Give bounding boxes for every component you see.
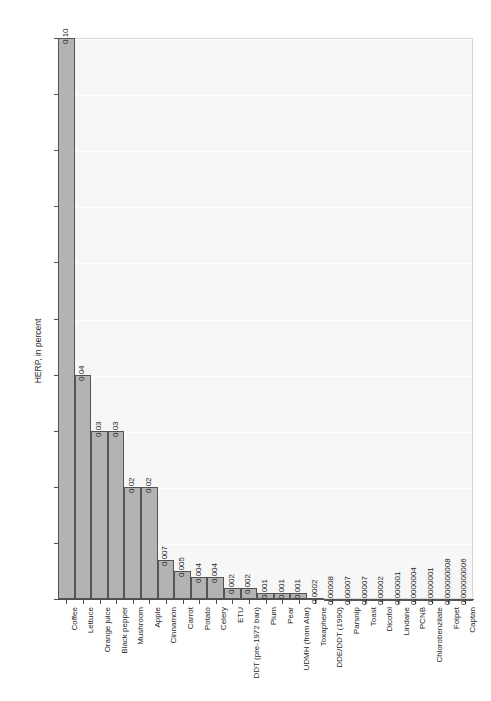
- x-tick-label: UDMH (from Alar): [302, 607, 311, 671]
- bar-value-label: 0.001: [293, 579, 302, 599]
- bar-value-label: 0.02: [144, 477, 153, 493]
- bar-value-label: 0.0002: [310, 579, 319, 603]
- x-tick-label: Apple: [153, 607, 162, 627]
- bar-value-label: 0.00008: [326, 576, 335, 605]
- x-tick-label: Folpet: [452, 607, 461, 629]
- bar-value-label: 0.10: [61, 28, 70, 44]
- bar-value-label: 0.000000008: [443, 558, 452, 605]
- bar-value-label: 0.04: [77, 365, 86, 381]
- x-tick-label: Lindane: [402, 607, 411, 635]
- x-tick-label: Captan: [468, 607, 477, 633]
- bar-value-label: 0.03: [94, 421, 103, 437]
- bar-value-label: 0.00002: [376, 576, 385, 605]
- bar-value-label: 0.001: [260, 579, 269, 599]
- x-tick-label: Celery: [219, 607, 228, 630]
- x-tick-mark: [216, 600, 217, 604]
- bar: [75, 375, 92, 599]
- y-tick-mark: [54, 599, 58, 600]
- x-tick-label: Coffee: [70, 607, 79, 630]
- gridline: [59, 320, 472, 321]
- x-tick-label: Toast: [369, 607, 378, 626]
- x-tick-mark: [199, 600, 200, 604]
- x-tick-label: Toxaphene: [319, 607, 328, 646]
- bar-value-label: 0.005: [177, 557, 186, 577]
- bar-value-label: 0.00007: [360, 576, 369, 605]
- bar-value-label: 0.007: [160, 546, 169, 566]
- bar: [141, 487, 158, 599]
- x-tick-mark: [282, 600, 283, 604]
- x-tick-label: Pear: [286, 607, 295, 624]
- bar-value-label: 0.0000004: [409, 567, 418, 605]
- x-tick-label: DDE/DDT (1990): [335, 607, 344, 668]
- bar-value-label: 0.001: [277, 579, 286, 599]
- x-tick-mark: [183, 600, 184, 604]
- x-tick-mark: [66, 600, 67, 604]
- x-tick-label: DDT (pre-1972 ban): [252, 607, 261, 678]
- gridline: [59, 95, 472, 96]
- x-tick-mark: [100, 600, 101, 604]
- x-tick-mark: [299, 600, 300, 604]
- bar: [108, 431, 125, 599]
- x-tick-label: Orange juice: [103, 607, 112, 652]
- x-tick-label: Plum: [269, 607, 278, 625]
- x-tick-label: Cinnamon: [169, 607, 178, 643]
- x-tick-mark: [249, 600, 250, 604]
- x-tick-mark: [149, 600, 150, 604]
- y-axis-title: HERP, in percent: [33, 318, 43, 383]
- x-tick-label: Black pepper: [120, 607, 129, 654]
- x-tick-label: Potato: [203, 607, 212, 630]
- bar-value-label: 0.004: [210, 563, 219, 583]
- x-tick-mark: [266, 600, 267, 604]
- bar: [58, 38, 75, 599]
- bar-value-label: 0.000001: [393, 572, 402, 605]
- bar-value-label: 0.002: [243, 574, 252, 594]
- x-tick-mark: [116, 600, 117, 604]
- x-tick-mark: [166, 600, 167, 604]
- bar-value-label: 0.00007: [343, 576, 352, 605]
- x-tick-label: Parsnip: [352, 607, 361, 634]
- bar-value-label: 0.002: [227, 574, 236, 594]
- x-tick-mark: [83, 600, 84, 604]
- x-tick-label: Mushroom: [136, 607, 145, 645]
- chart-container: HERP, in percent 0.000.010.020.030.040.0…: [0, 0, 491, 701]
- x-tick-mark: [232, 600, 233, 604]
- bar-value-label: 0.0000001: [426, 567, 435, 605]
- gridline: [59, 376, 472, 377]
- bar-value-label: 0.000000006: [459, 558, 468, 605]
- bar: [124, 487, 141, 599]
- x-tick-label: Lettuce: [86, 607, 95, 633]
- gridline: [59, 151, 472, 152]
- gridline: [59, 207, 472, 208]
- bar-value-label: 0.03: [111, 421, 120, 437]
- x-tick-mark: [133, 600, 134, 604]
- x-tick-label: ETU: [236, 607, 245, 623]
- bar-value-label: 0.02: [127, 477, 136, 493]
- gridline: [59, 39, 472, 40]
- x-tick-label: Chlorobenzilate: [435, 607, 444, 663]
- x-tick-label: Dicofol: [385, 607, 394, 631]
- bar: [91, 431, 108, 599]
- x-tick-label: PCNB: [418, 607, 427, 629]
- gridline: [59, 263, 472, 264]
- x-tick-label: Carrot: [186, 607, 195, 629]
- bar-value-label: 0.004: [194, 563, 203, 583]
